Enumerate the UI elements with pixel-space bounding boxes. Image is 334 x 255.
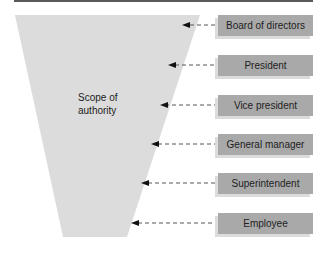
funnel-label: Scope of authority	[78, 91, 138, 117]
level-label: General manager	[227, 139, 305, 150]
level-box-employee: Employee	[218, 213, 313, 234]
level-box-superintendent: Superintendent	[218, 173, 313, 194]
level-box-board: Board of directors	[218, 15, 313, 36]
level-box-vice-president: Vice president	[218, 95, 313, 116]
level-label: Vice president	[234, 100, 297, 111]
level-box-president: President	[218, 55, 313, 76]
level-label: President	[244, 60, 286, 71]
funnel-label-line1: Scope of	[78, 91, 138, 104]
level-label: Board of directors	[226, 20, 305, 31]
level-label: Employee	[243, 218, 287, 229]
funnel-label-line2: authority	[78, 104, 138, 117]
level-label: Superintendent	[232, 178, 300, 189]
level-box-general-manager: General manager	[218, 134, 313, 155]
